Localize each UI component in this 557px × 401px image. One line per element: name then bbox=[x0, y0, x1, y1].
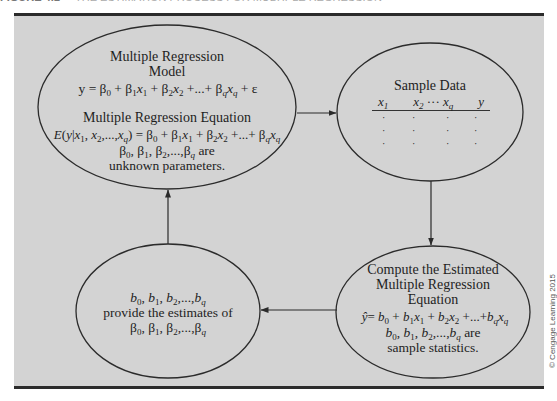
compute-title-line1: Compute the Estimated bbox=[363, 262, 503, 277]
estimates-text: b0, b1, b2,...,bq provide the estimates … bbox=[93, 290, 243, 335]
model-expected-equation: E(y|x1, x2,...,xq) = β0 + β1x1 + β2x2 +.… bbox=[36, 127, 298, 142]
estimates-line2: provide the estimates of bbox=[93, 305, 243, 320]
compute-stats: b0, b1, b2,...,bq are sample statistics. bbox=[363, 325, 503, 355]
sample-data-header: x1x2 ··· xqy bbox=[372, 95, 490, 111]
compute-stats-line2: sample statistics. bbox=[363, 340, 503, 355]
sample-data-rows: ···· ···· ···· bbox=[372, 111, 490, 150]
compute-title-line2: Multiple Regression bbox=[363, 277, 503, 292]
copyright-notice: © Cengage Learning 2015 bbox=[548, 274, 557, 368]
model-params: β0, β1, β2,...,βq are unknown parameters… bbox=[77, 143, 257, 173]
model-equation-title: Multiple Regression Equation bbox=[57, 110, 277, 125]
model-equation: y = β0 + β1x1 + β2x2 +...+ βqxq + ε bbox=[40, 81, 296, 96]
model-title-line2: Model bbox=[77, 64, 257, 79]
model-params-line2: unknown parameters. bbox=[77, 158, 257, 173]
sample-data-title: Sample Data bbox=[380, 78, 480, 93]
compute-title: Compute the Estimated Multiple Regressio… bbox=[363, 262, 503, 307]
model-title-line1: Multiple Regression bbox=[77, 49, 257, 64]
sample-data-table: x1x2 ··· xqy ···· ···· ···· bbox=[372, 95, 490, 150]
model-title: Multiple Regression Model bbox=[77, 49, 257, 79]
compute-equation: ŷ= b0 + b1x1 + b2x2 +...+bqxq bbox=[340, 309, 530, 324]
compute-title-line3: Equation bbox=[363, 292, 503, 307]
